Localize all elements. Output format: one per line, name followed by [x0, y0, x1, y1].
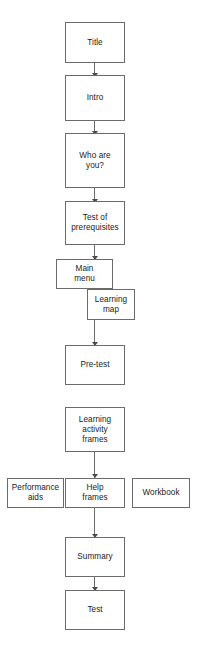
connector-help-frames-summary [94, 508, 95, 537]
node-who-are-you-label: Who areyou? [79, 151, 110, 171]
node-main-menu-label: Mainmenu [74, 264, 95, 284]
node-performance-aids[interactable]: Performanceaids [7, 478, 64, 508]
node-learning-activity-frames[interactable]: Learningactivityframes [65, 407, 125, 452]
node-performance-aids-label: Performanceaids [12, 483, 59, 503]
node-title-label: Title [87, 38, 102, 48]
node-intro-label: Intro [87, 93, 104, 103]
node-intro[interactable]: Intro [65, 75, 125, 121]
node-workbook[interactable]: Workbook [132, 478, 190, 508]
node-test-of-prerequisites[interactable]: Test ofprerequisites [65, 201, 125, 245]
node-main-menu[interactable]: Mainmenu [56, 259, 113, 289]
node-help-frames-label: Helpframes [82, 483, 107, 503]
node-help-frames[interactable]: Helpframes [65, 478, 125, 508]
node-learning-activity-frames-label: Learningactivityframes [79, 415, 111, 445]
node-pre-test-label: Pre-test [80, 360, 109, 370]
node-test-of-prerequisites-label: Test ofprerequisites [71, 213, 119, 233]
node-summary[interactable]: Summary [65, 537, 125, 577]
node-test-label: Test [87, 605, 102, 615]
node-workbook-label: Workbook [142, 488, 179, 498]
node-summary-label: Summary [77, 552, 112, 562]
node-learning-map-label: Learningmap [95, 295, 127, 315]
node-who-are-you[interactable]: Who areyou? [65, 133, 125, 188]
node-pre-test[interactable]: Pre-test [65, 345, 125, 385]
node-test[interactable]: Test [65, 590, 125, 630]
node-title[interactable]: Title [65, 22, 125, 63]
flowchart-canvas: Title Intro Who areyou? Test ofprerequis… [0, 0, 199, 656]
node-learning-map[interactable]: Learningmap [87, 289, 135, 320]
